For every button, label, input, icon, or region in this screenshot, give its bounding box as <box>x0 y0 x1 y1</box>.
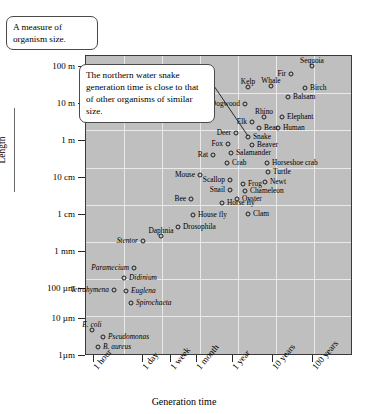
data-point <box>234 131 239 136</box>
y-axis-tick <box>78 355 85 356</box>
callout-organism-size: A measure of organism size. <box>6 16 98 50</box>
data-point-label: Clam <box>253 210 269 217</box>
data-point <box>122 276 127 281</box>
data-point-label: Mouse <box>175 171 195 178</box>
data-point <box>241 182 246 187</box>
data-point <box>228 178 233 183</box>
y-axis-tick-label: 10 µm <box>52 313 75 323</box>
data-point-label: Turtle <box>273 168 291 175</box>
data-point <box>263 180 268 185</box>
data-point <box>229 151 234 156</box>
data-point <box>189 197 194 202</box>
data-point <box>225 161 230 166</box>
data-point <box>112 288 117 293</box>
data-point-label: Dogwood <box>211 100 240 107</box>
data-point-label: Drosophila <box>183 223 216 230</box>
data-point <box>226 142 231 147</box>
data-point <box>132 266 137 271</box>
data-point-label: Scallop <box>203 176 225 183</box>
y-axis-tick-label: 10 cm <box>53 172 75 182</box>
data-point <box>191 213 196 218</box>
data-point <box>286 95 291 100</box>
data-point-label: Balsam <box>293 93 315 100</box>
y-axis-tick-label: 1 cm <box>57 209 75 219</box>
data-point-label: Spirochaeta <box>136 299 171 306</box>
data-point-label: Snail <box>210 186 225 193</box>
data-point <box>129 301 134 306</box>
data-point-label: House fly <box>198 211 227 218</box>
data-point-label: Bee <box>175 195 187 202</box>
data-point <box>266 170 271 175</box>
data-point-label: E. coli <box>82 321 101 328</box>
data-point-label: Elephant <box>287 113 313 120</box>
data-point <box>250 143 255 148</box>
data-point <box>289 72 294 77</box>
data-point-label: Sequoia <box>300 57 324 64</box>
y-axis-tick-label: 1 m <box>61 135 75 145</box>
data-point <box>280 115 285 120</box>
data-point <box>198 173 203 178</box>
data-point <box>96 345 101 350</box>
data-point-label: Crab <box>232 159 246 166</box>
data-point <box>265 161 270 166</box>
data-point-label: Didinium <box>129 274 157 281</box>
data-point-label: Tetrahymena <box>71 286 109 293</box>
y-axis-tick <box>78 140 85 141</box>
y-axis-tick <box>78 177 85 178</box>
x-axis-title: Generation time <box>0 396 368 407</box>
y-axis-tick <box>78 251 85 252</box>
gridline-horizontal <box>86 168 351 169</box>
data-point-label: Daphnia <box>148 227 173 234</box>
data-point-label: Euglena <box>131 287 156 294</box>
data-point-label: Horseshoe crab <box>272 159 318 166</box>
gridline-horizontal <box>86 316 351 317</box>
data-point <box>176 225 181 230</box>
data-point-label: Birch <box>310 84 326 91</box>
callout-snake-note: The northern water snake generation time… <box>79 64 215 123</box>
chart-figure: 100 m10 m1 m10 cm1 cm1 mm100 µm10 µm1µm1… <box>0 0 368 414</box>
data-point <box>246 135 251 140</box>
data-point <box>228 188 233 193</box>
data-point-label: Whale <box>261 77 280 84</box>
data-point <box>220 201 225 206</box>
data-point-label: Paramecium <box>91 264 129 271</box>
data-point-label: Rhino <box>255 108 273 115</box>
gridline-horizontal <box>86 205 351 206</box>
data-point <box>276 126 281 131</box>
y-axis-title: Length <box>0 137 7 164</box>
data-point-label: Rat <box>198 151 208 158</box>
data-point-label: B. aureus <box>103 343 131 350</box>
data-point-label: Elk <box>237 118 247 125</box>
data-point-label: Fox <box>211 140 223 147</box>
data-point <box>243 189 248 194</box>
y-axis-tick-label: 1 mm <box>54 246 75 256</box>
data-point-label: Human <box>283 124 305 131</box>
data-point <box>243 102 248 107</box>
data-point-label: Deer <box>217 129 231 136</box>
data-point <box>257 126 262 131</box>
data-point <box>250 120 255 125</box>
data-point <box>246 212 251 217</box>
data-point-label: Horse fly <box>227 199 255 206</box>
data-point-label: Pseudomonas <box>108 333 149 340</box>
data-point-label: Kelp <box>241 78 255 85</box>
data-point-label: Salamander <box>236 149 271 156</box>
data-point-label: Newt <box>270 178 286 185</box>
data-point <box>101 335 106 340</box>
data-point <box>303 86 308 91</box>
y-axis-rule <box>14 108 15 192</box>
y-axis-tick-label: 1µm <box>58 350 75 360</box>
data-point <box>141 239 146 244</box>
data-point-label: Stentor <box>117 237 138 244</box>
data-point <box>124 289 129 294</box>
y-axis-tick <box>78 318 85 319</box>
data-point <box>211 153 216 158</box>
y-axis-tick-label: 10 m <box>57 98 75 108</box>
y-axis-tick-label: 100 m <box>52 61 75 71</box>
y-axis-tick <box>78 214 85 215</box>
